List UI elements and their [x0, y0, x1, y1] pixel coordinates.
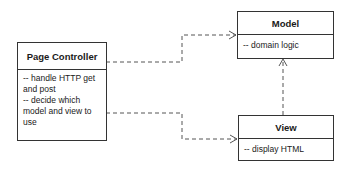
responsibility: -- display HTML	[244, 144, 329, 155]
responsibility: -- domain logic	[243, 40, 329, 51]
class-page-controller: Page Controller -- handle HTTP get and p…	[17, 42, 107, 141]
class-responsibilities: -- handle HTTP get and post -- decide wh…	[18, 70, 106, 128]
class-model: Model -- domain logic	[237, 11, 334, 59]
class-view: View -- display HTML	[238, 115, 334, 161]
responsibility: -- decide which model and view to use	[23, 95, 102, 128]
class-name: View	[239, 116, 333, 139]
class-name: Page Controller	[18, 43, 106, 70]
dependency-controller-to-model	[106, 35, 236, 62]
class-responsibilities: -- domain logic	[238, 35, 333, 51]
dependency-controller-to-view	[106, 113, 237, 139]
class-responsibilities: -- display HTML	[239, 139, 333, 155]
class-name: Model	[238, 12, 333, 35]
responsibility: -- handle HTTP get and post	[23, 73, 102, 95]
